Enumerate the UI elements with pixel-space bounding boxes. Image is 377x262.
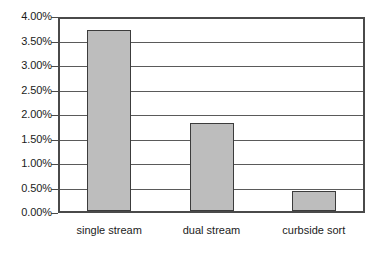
- y-axis-tick-mark: [51, 140, 58, 141]
- x-axis-tick-label: single stream: [58, 224, 160, 237]
- x-axis-tick-label: dual stream: [160, 224, 262, 237]
- y-axis-tick-mark: [51, 213, 58, 214]
- bar: [87, 30, 131, 211]
- bar-chart: 4.00%3.50%3.00%2.50%2.00%1.50%1.00%0.50%…: [0, 0, 377, 262]
- y-axis-tick-mark: [51, 164, 58, 165]
- bar: [292, 191, 336, 211]
- y-axis-tick-marks: [0, 17, 58, 213]
- y-axis-tick-mark: [51, 115, 58, 116]
- x-axis-tick-label: curbside sort: [263, 224, 365, 237]
- y-axis-tick-mark: [51, 189, 58, 190]
- y-axis-tick-mark: [51, 42, 58, 43]
- y-axis-tick-mark: [51, 17, 58, 18]
- plot-area: [58, 17, 365, 213]
- y-axis-tick-mark: [51, 66, 58, 67]
- x-axis-tick-labels: single streamdual streamcurbside sort: [58, 224, 365, 248]
- bar: [190, 123, 234, 211]
- y-axis-tick-mark: [51, 91, 58, 92]
